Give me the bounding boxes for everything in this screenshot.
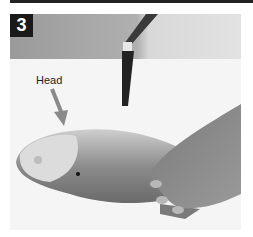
- step-photo: [10, 14, 241, 230]
- head-annotation-label: Head: [36, 74, 62, 86]
- step-number-badge: 3: [10, 14, 33, 37]
- fish-photo-illustration: [10, 14, 241, 230]
- top-rule: [10, 0, 253, 3]
